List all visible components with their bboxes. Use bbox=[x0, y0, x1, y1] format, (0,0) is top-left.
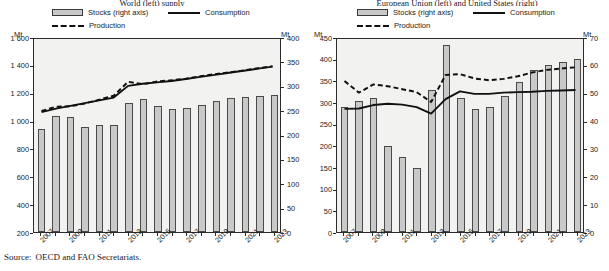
x-tick-mark bbox=[475, 233, 476, 236]
solid-line-swatch-icon bbox=[473, 12, 505, 14]
y-tick-label: 1 600 bbox=[3, 34, 29, 43]
y-tick-label: 350 bbox=[306, 77, 332, 86]
y-tick-label: 400 bbox=[3, 201, 29, 210]
y2-tick-mark bbox=[584, 205, 587, 206]
x-tick-mark bbox=[55, 233, 56, 236]
y2-tick-label: 30 bbox=[590, 145, 609, 154]
y-tick-label: 800 bbox=[3, 145, 29, 154]
figure-container: World (left) supply Stocks (right axis) … bbox=[0, 0, 609, 271]
x-tick-mark bbox=[172, 233, 173, 236]
x-tick-mark bbox=[201, 233, 202, 236]
y2-tick-mark bbox=[281, 136, 284, 137]
source-text: OECD and FAO Secretariats. bbox=[36, 252, 142, 262]
legend-item-production: Production bbox=[357, 21, 430, 30]
y-tick-mark bbox=[333, 146, 336, 147]
y-tick-mark bbox=[30, 205, 33, 206]
x-tick-mark bbox=[445, 233, 446, 236]
plot-area-right bbox=[336, 38, 584, 233]
legend-label-consumption: Consumption bbox=[205, 8, 250, 17]
y2-tick-mark bbox=[584, 66, 587, 67]
legend-label-production: Production bbox=[89, 21, 125, 30]
x-axis-right: 200720092011201320152017201920212023 bbox=[336, 233, 584, 259]
x-tick-mark bbox=[562, 233, 563, 236]
y2-tick-mark bbox=[584, 38, 587, 39]
y-tick-mark bbox=[30, 94, 33, 95]
consumption-line bbox=[344, 90, 575, 114]
x-tick-mark bbox=[533, 233, 534, 236]
legend-left: Stocks (right axis) Consumption Producti… bbox=[28, 8, 280, 34]
legend-label-consumption: Consumption bbox=[510, 8, 555, 17]
y2-tick-label: 40 bbox=[590, 117, 609, 126]
y-tick-mark bbox=[333, 125, 336, 126]
y2-tick-mark bbox=[584, 177, 587, 178]
legend-label-stocks: Stocks (right axis) bbox=[88, 8, 148, 17]
y2-tick-label: 0 bbox=[590, 229, 609, 238]
y2-tick-mark bbox=[281, 38, 284, 39]
x-tick-mark bbox=[416, 233, 417, 236]
y-tick-mark bbox=[30, 149, 33, 150]
y-tick-mark bbox=[30, 38, 33, 39]
y2-tick-mark bbox=[281, 62, 284, 63]
x-tick-mark bbox=[142, 233, 143, 236]
solid-line-swatch-icon bbox=[168, 12, 200, 14]
y2-tick-mark bbox=[584, 149, 587, 150]
dashed-line-swatch-icon bbox=[52, 25, 84, 27]
y2-tick-label: 60 bbox=[590, 61, 609, 70]
y2-tick-mark bbox=[281, 87, 284, 88]
y2-tick-mark bbox=[281, 184, 284, 185]
y2-tick-mark bbox=[584, 94, 587, 95]
y-tick-label: 600 bbox=[3, 173, 29, 182]
panel-title-right: European Union (left) and United States … bbox=[305, 0, 609, 6]
y2-tick-label: 70 bbox=[590, 34, 609, 43]
y-tick-mark bbox=[333, 60, 336, 61]
legend-label-production: Production bbox=[394, 21, 430, 30]
y-tick-label: 300 bbox=[306, 99, 332, 108]
y-tick-label: 100 bbox=[306, 185, 332, 194]
source-note: Source:OECD and FAO Secretariats. bbox=[4, 252, 141, 262]
x-tick-mark bbox=[504, 233, 505, 236]
y-tick-label: 1 200 bbox=[3, 89, 29, 98]
y-tick-label: 200 bbox=[3, 229, 29, 238]
y2-tick-mark bbox=[584, 122, 587, 123]
chart-panel-right: European Union (left) and United States … bbox=[305, 0, 609, 248]
y-tick-mark bbox=[333, 81, 336, 82]
legend-item-stocks: Stocks (right axis) bbox=[357, 8, 453, 17]
x-tick-mark bbox=[259, 233, 260, 236]
legend-item-production: Production bbox=[52, 21, 125, 30]
legend-right: Stocks (right axis) Consumption Producti… bbox=[333, 8, 585, 34]
legend-item-consumption: Consumption bbox=[168, 8, 250, 17]
x-tick-mark bbox=[358, 233, 359, 236]
legend-item-stocks: Stocks (right axis) bbox=[52, 8, 148, 17]
legend-item-consumption: Consumption bbox=[473, 8, 555, 17]
y-tick-label: 0 bbox=[306, 229, 332, 238]
x-tick-mark bbox=[387, 233, 388, 236]
production-line bbox=[41, 66, 272, 111]
dashed-line-swatch-icon bbox=[357, 25, 389, 27]
production-line bbox=[344, 67, 575, 102]
panel-title-left: World (left) supply bbox=[0, 0, 304, 6]
y2-tick-label: 20 bbox=[590, 173, 609, 182]
x-tick-mark bbox=[113, 233, 114, 236]
y-tick-mark bbox=[30, 177, 33, 178]
bar-swatch-icon bbox=[357, 9, 388, 16]
plot-area-left bbox=[33, 38, 281, 233]
y2-tick-label: 50 bbox=[590, 89, 609, 98]
y-tick-label: 1 000 bbox=[3, 117, 29, 126]
line-group-left bbox=[34, 39, 280, 232]
y-tick-label: 400 bbox=[306, 55, 332, 64]
line-group-right bbox=[337, 39, 583, 232]
y-tick-mark bbox=[333, 168, 336, 169]
y2-tick-mark bbox=[281, 160, 284, 161]
y-tick-label: 50 bbox=[306, 207, 332, 216]
y2-tick-mark bbox=[281, 209, 284, 210]
y-tick-label: 250 bbox=[306, 120, 332, 129]
y-tick-mark bbox=[30, 122, 33, 123]
y-tick-label: 150 bbox=[306, 164, 332, 173]
y2-tick-label: 10 bbox=[590, 201, 609, 210]
bar-swatch-icon bbox=[52, 9, 83, 16]
y-tick-mark bbox=[333, 103, 336, 104]
y-tick-mark bbox=[333, 211, 336, 212]
y-tick-mark bbox=[30, 66, 33, 67]
chart-panel-left: World (left) supply Stocks (right axis) … bbox=[0, 0, 304, 248]
y-tick-mark bbox=[333, 38, 336, 39]
